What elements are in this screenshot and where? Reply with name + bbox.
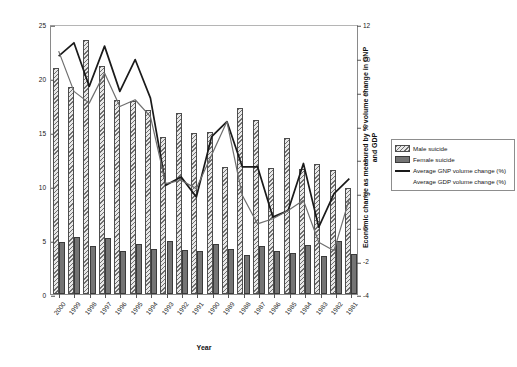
black-line-swatch — [395, 167, 410, 174]
x-axis-tick-mark — [305, 294, 306, 298]
y-axis-right-tick: 12 — [357, 23, 370, 30]
y-axis-right-tick: 4 — [357, 158, 367, 165]
x-axis-tick-label: 1993 — [161, 301, 175, 316]
x-axis-tick-label: 1990 — [207, 301, 221, 316]
y-axis-right-title-line2: and GDP — [371, 133, 378, 163]
x-axis-tick-label: 1998 — [84, 301, 98, 316]
x-axis-tick-mark — [259, 294, 260, 298]
line-gdp-volume-change — [59, 51, 350, 251]
legend-item: Male suicide — [395, 143, 512, 154]
x-axis-tick-mark — [274, 294, 275, 298]
x-axis-tick-mark — [136, 294, 137, 298]
x-axis-tick-label: 1982 — [330, 301, 344, 316]
x-axis-tick-label: 1989 — [222, 301, 236, 316]
y-axis-right-tick: -2 — [357, 259, 369, 266]
x-axis-tick-mark — [74, 294, 75, 298]
y-axis-right-tick: 10 — [357, 57, 370, 64]
y-axis-right-title-line1: Economic change as measured by % volume … — [362, 47, 369, 248]
plot-area: 0510152025 -4-2024681012 200019991998199… — [50, 25, 358, 295]
x-axis-tick-label: 1985 — [284, 301, 298, 316]
legend-item-label: Average GDP volume change (%) — [413, 178, 506, 185]
x-axis-tick-mark — [213, 294, 214, 298]
x-axis-tick-label: 1983 — [315, 301, 329, 316]
chart-legend: Male suicideFemale suicideAverage GNP vo… — [391, 139, 515, 191]
chart-figure: Rate of suicide per 100,000 population E… — [0, 0, 517, 367]
y-axis-right-tick: 8 — [357, 90, 367, 97]
x-axis-tick-mark — [244, 294, 245, 298]
x-axis-tick-mark — [197, 294, 198, 298]
legend-item: Average GNP volume change (%) — [395, 165, 512, 176]
y-axis-left-tick: 5 — [42, 239, 51, 246]
y-axis-right-tick: -4 — [357, 293, 369, 300]
x-axis-tick-mark — [59, 294, 60, 298]
x-axis-tick-label: 1997 — [99, 301, 113, 316]
x-axis-tick-label: 1994 — [145, 301, 159, 316]
plot-inner — [51, 26, 357, 294]
x-axis-title: Year — [50, 344, 358, 351]
x-axis-tick-mark — [151, 294, 152, 298]
y-axis-left-tick: 10 — [39, 185, 51, 192]
x-axis-tick-mark — [290, 294, 291, 298]
x-axis-tick-mark — [167, 294, 168, 298]
solid-gray-bar-swatch — [395, 156, 410, 163]
x-axis-tick-label: 1988 — [238, 301, 252, 316]
x-axis-tick-label: 1991 — [191, 301, 205, 316]
x-axis-tick-label: 1995 — [130, 301, 144, 316]
line-series-group — [51, 26, 357, 294]
x-axis-tick-mark — [321, 294, 322, 298]
x-axis-tick-label: 1984 — [299, 301, 313, 316]
y-axis-right-tick: 6 — [357, 124, 367, 131]
x-axis-tick-mark — [336, 294, 337, 298]
y-axis-left-tick: 25 — [39, 23, 51, 30]
legend-item: Average GDP volume change (%) — [395, 176, 512, 187]
x-axis-tick-mark — [182, 294, 183, 298]
legend-item: Female suicide — [395, 154, 512, 165]
x-axis-tick-label: 1999 — [68, 301, 82, 316]
x-axis-tick-label: 1996 — [114, 301, 128, 316]
x-axis-tick-label: 1992 — [176, 301, 190, 316]
gray-line-swatch — [395, 178, 410, 185]
x-axis-tick-mark — [105, 294, 106, 298]
y-axis-right-tick: 2 — [357, 192, 367, 199]
x-axis-tick-label: 2000 — [53, 301, 67, 316]
x-axis-tick-mark — [90, 294, 91, 298]
y-axis-right-tick: 0 — [357, 225, 367, 232]
line-gnp-volume-change — [59, 43, 350, 227]
x-axis-tick-mark — [351, 294, 352, 298]
x-axis-tick-label: 1986 — [268, 301, 282, 316]
y-axis-left-tick: 15 — [39, 131, 51, 138]
hatched-bar-swatch — [395, 145, 410, 152]
x-axis-tick-label: 1987 — [253, 301, 267, 316]
y-axis-left-tick: 20 — [39, 77, 51, 84]
x-axis-tick-label: 1981 — [345, 301, 359, 316]
y-axis-left-tick: 0 — [42, 293, 51, 300]
legend-item-label: Female suicide — [413, 156, 455, 163]
x-axis-tick-mark — [228, 294, 229, 298]
x-axis-tick-mark — [120, 294, 121, 298]
legend-item-label: Average GNP volume change (%) — [413, 167, 506, 174]
legend-item-label: Male suicide — [413, 145, 447, 152]
